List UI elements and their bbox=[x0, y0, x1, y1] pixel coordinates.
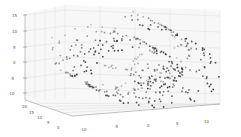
data-point bbox=[173, 85, 175, 87]
data-point bbox=[167, 87, 169, 89]
data-point bbox=[51, 37, 53, 39]
data-point bbox=[137, 56, 139, 58]
data-point bbox=[151, 105, 153, 107]
data-point bbox=[170, 65, 172, 67]
data-point bbox=[112, 94, 114, 96]
data-point bbox=[112, 67, 114, 69]
data-point bbox=[152, 47, 154, 49]
data-point bbox=[101, 31, 103, 33]
data-point bbox=[64, 34, 66, 36]
data-point bbox=[108, 50, 110, 52]
data-point bbox=[139, 54, 141, 56]
data-point bbox=[161, 85, 163, 87]
data-point bbox=[171, 102, 173, 104]
y-tick-label: 20 bbox=[22, 104, 28, 109]
data-point bbox=[202, 75, 204, 77]
data-point bbox=[67, 72, 69, 74]
data-point bbox=[142, 69, 144, 71]
z-tick-label: 5 bbox=[13, 45, 16, 50]
data-point bbox=[133, 74, 135, 76]
data-point bbox=[149, 78, 151, 80]
data-point bbox=[154, 47, 156, 49]
data-point bbox=[181, 71, 183, 73]
data-point bbox=[182, 74, 184, 76]
data-point bbox=[161, 29, 163, 31]
data-point bbox=[113, 31, 115, 33]
data-point bbox=[66, 56, 68, 58]
data-point bbox=[150, 24, 152, 26]
data-point bbox=[168, 61, 170, 63]
data-point bbox=[165, 53, 167, 55]
data-point bbox=[116, 41, 118, 43]
data-point bbox=[154, 70, 156, 72]
data-point bbox=[163, 66, 165, 68]
data-point bbox=[69, 49, 71, 51]
data-point bbox=[151, 75, 153, 77]
data-point bbox=[162, 81, 164, 83]
data-point bbox=[126, 35, 128, 37]
data-point bbox=[172, 86, 174, 88]
data-point bbox=[159, 24, 161, 26]
data-point bbox=[138, 97, 140, 99]
data-point bbox=[96, 62, 98, 64]
data-point bbox=[185, 38, 187, 40]
data-point bbox=[147, 88, 149, 90]
data-point bbox=[171, 31, 173, 33]
data-point bbox=[105, 95, 107, 97]
data-point bbox=[155, 80, 157, 82]
data-point bbox=[117, 50, 119, 52]
data-point bbox=[136, 58, 138, 60]
data-point bbox=[85, 61, 87, 63]
data-point bbox=[189, 69, 191, 71]
data-point bbox=[141, 87, 143, 89]
x-tick-label: -5 bbox=[114, 124, 118, 129]
data-point bbox=[137, 63, 139, 65]
data-point bbox=[172, 35, 174, 37]
data-point bbox=[130, 69, 132, 71]
data-point bbox=[84, 81, 86, 83]
data-point bbox=[209, 53, 211, 55]
data-point bbox=[95, 31, 97, 33]
data-point bbox=[77, 39, 79, 41]
data-point bbox=[121, 85, 123, 87]
data-point bbox=[74, 74, 76, 76]
data-point bbox=[150, 20, 152, 22]
data-point bbox=[154, 100, 156, 102]
data-point bbox=[132, 11, 134, 13]
data-point bbox=[140, 84, 142, 86]
data-point bbox=[209, 86, 211, 88]
data-point bbox=[114, 50, 116, 52]
data-point bbox=[163, 106, 165, 108]
data-point bbox=[179, 72, 181, 74]
data-point bbox=[127, 93, 129, 95]
data-point bbox=[72, 70, 74, 72]
data-point bbox=[117, 33, 119, 35]
data-point bbox=[131, 19, 133, 21]
data-point bbox=[210, 57, 212, 59]
data-point bbox=[169, 56, 171, 58]
data-point bbox=[110, 66, 112, 68]
data-point bbox=[173, 80, 175, 82]
data-point bbox=[185, 91, 187, 93]
data-point bbox=[142, 41, 144, 43]
data-point bbox=[132, 46, 134, 48]
data-point bbox=[171, 63, 173, 65]
data-point bbox=[59, 55, 61, 57]
data-point bbox=[165, 28, 167, 30]
data-point bbox=[90, 24, 92, 26]
data-point bbox=[147, 81, 149, 83]
data-point bbox=[114, 40, 116, 42]
data-point bbox=[112, 45, 114, 47]
data-point bbox=[152, 82, 154, 84]
data-point bbox=[149, 88, 151, 90]
data-point bbox=[202, 49, 204, 51]
data-point bbox=[80, 65, 82, 67]
data-point bbox=[176, 64, 178, 66]
z-tick-label: 10 bbox=[12, 29, 18, 34]
x-tick-label: -10 bbox=[80, 127, 87, 132]
data-point bbox=[212, 89, 214, 91]
data-point bbox=[98, 90, 100, 92]
data-point bbox=[150, 81, 152, 83]
data-point bbox=[115, 67, 117, 69]
data-point bbox=[89, 84, 91, 86]
